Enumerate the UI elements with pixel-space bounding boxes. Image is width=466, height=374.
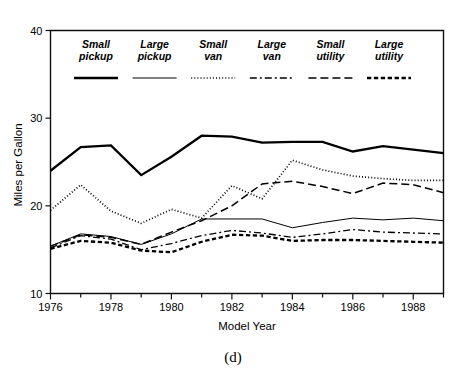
series-lines (51, 136, 444, 253)
y-tick-label: 30 (30, 112, 42, 124)
legend-label-line1: Large (258, 38, 287, 50)
legend-label-line2: pickup (137, 50, 172, 62)
x-tick-label: 1986 (341, 301, 365, 313)
series-line-small-pickup (51, 136, 444, 175)
x-tick-label: 1982 (220, 301, 244, 313)
y-tick-label: 20 (30, 200, 42, 212)
legend-label-line1: Large (140, 38, 169, 50)
x-axis-title: Model Year (218, 320, 276, 332)
y-tick-label: 40 (30, 25, 42, 37)
legend-label-line2: van (263, 50, 281, 62)
series-line-small-van (51, 160, 444, 223)
mpg-line-chart: 10203040 1976197819801982198419861988 Mi… (0, 0, 466, 374)
figure-caption: (d) (224, 349, 242, 366)
legend-label-line1: Small (316, 38, 345, 50)
y-axis-title: Miles per Gallon (12, 123, 24, 206)
plot-frame (51, 31, 444, 294)
x-tick-label: 1984 (280, 301, 304, 313)
legend-label-line2: pickup (78, 50, 113, 62)
legend-label-line2: utility (316, 50, 345, 62)
x-tick-label: 1980 (159, 301, 183, 313)
y-axis: 10203040 (30, 25, 50, 300)
legend-label-line1: Small (82, 38, 111, 50)
legend-label-line1: Large (375, 38, 404, 50)
legend-label-line2: utility (375, 50, 404, 62)
y-tick-label: 10 (30, 288, 42, 300)
x-tick-label: 1976 (38, 301, 62, 313)
legend-label-line1: Small (199, 38, 228, 50)
legend-label-line2: van (204, 50, 222, 62)
x-tick-label: 1978 (99, 301, 123, 313)
x-tick-label: 1988 (401, 301, 425, 313)
legend: SmallpickupLargepickupSmallvanLargevanSm… (74, 38, 411, 78)
series-line-large-van (51, 230, 444, 250)
figure-panel: 10203040 1976197819801982198419861988 Mi… (0, 0, 466, 374)
x-axis: 1976197819801982198419861988 (38, 294, 443, 313)
